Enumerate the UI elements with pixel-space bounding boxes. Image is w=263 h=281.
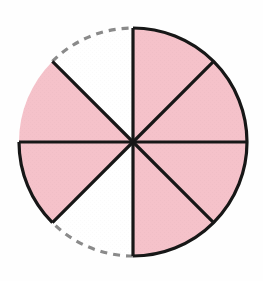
fraction-circle-diagram <box>0 0 263 281</box>
fraction-circle-figure <box>0 0 263 281</box>
radius-line-group <box>19 28 247 256</box>
